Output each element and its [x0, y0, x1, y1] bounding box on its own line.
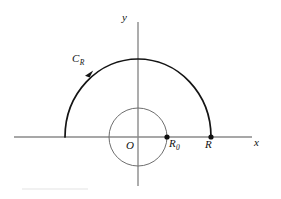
- figure-container: y x O CR R0 R: [0, 0, 281, 199]
- y-axis-label: y: [122, 12, 127, 23]
- point-label-r0: R0: [169, 138, 179, 149]
- contour-label-cr: CR: [72, 53, 84, 64]
- x-axis-label: x: [254, 137, 259, 148]
- contour-label-base: C: [72, 52, 79, 64]
- contour-label-subscript: R: [80, 58, 85, 67]
- origin-label: O: [126, 140, 134, 151]
- point-label-r-base: R: [205, 138, 212, 150]
- point-label-r: R: [205, 139, 212, 150]
- point-label-r0-base: R: [169, 137, 176, 149]
- contour-diagram-canvas: [0, 0, 281, 199]
- point-label-r0-subscript: 0: [176, 143, 180, 152]
